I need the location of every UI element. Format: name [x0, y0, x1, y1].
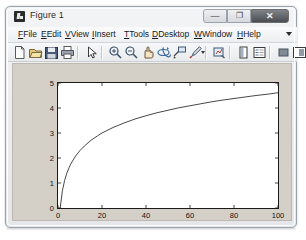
toolbar-separator: [229, 46, 231, 59]
menu-item-help[interactable]: HHelp: [236, 29, 262, 39]
y-tick-label: 2: [38, 154, 54, 163]
minimize-icon: —: [204, 10, 226, 22]
menu-label: Tools: [129, 29, 149, 39]
y-tick-label: 5: [38, 79, 54, 88]
menu-label: Insert: [94, 29, 115, 39]
menu-item-window[interactable]: WWindow: [193, 29, 233, 39]
toolbar-separator: [101, 46, 103, 59]
plot-curve-svg: [58, 83, 278, 208]
x-tick-marks: [58, 83, 278, 208]
minimize-button[interactable]: —: [203, 9, 227, 23]
data-series-line: [60, 93, 278, 208]
figure-canvas[interactable]: 020406080100 012345: [12, 63, 292, 221]
zoom-in-icon[interactable]: [108, 45, 123, 60]
plot-axes[interactable]: [57, 82, 279, 209]
menu-item-tools[interactable]: TTools: [123, 29, 150, 39]
menu-item-file[interactable]: FFile: [17, 29, 38, 39]
data-cursor-icon[interactable]: [172, 45, 187, 60]
window-title: Figure 1: [30, 10, 64, 20]
title-bar[interactable]: Figure 1 — ❐ ✕: [6, 7, 296, 27]
menu-item-edit[interactable]: EEdit: [40, 29, 62, 39]
y-tick-label: 3: [38, 129, 54, 138]
show-plot-tools-icon[interactable]: [292, 45, 304, 60]
menu-item-insert[interactable]: IInsert: [91, 29, 117, 39]
menu-label: Edit: [47, 29, 62, 39]
menu-label: File: [23, 29, 37, 39]
menu-label: Help: [243, 29, 260, 39]
toolbar-separator: [269, 46, 271, 59]
print-figure-icon[interactable]: [60, 45, 75, 60]
maximize-button[interactable]: ❐: [227, 9, 251, 23]
matlab-figure-icon: [14, 11, 25, 22]
toolbar-separator: [77, 46, 79, 59]
maximize-icon: ❐: [228, 10, 250, 22]
figure-window: Figure 1 — ❐ ✕ FFile EEdit VView IInsert…: [5, 6, 297, 228]
rotate-3d-icon[interactable]: [156, 45, 171, 60]
new-figure-icon[interactable]: [12, 45, 27, 60]
x-tick-label: 20: [90, 211, 114, 220]
x-tick-label: 40: [134, 211, 158, 220]
menu-label: Window: [202, 29, 232, 39]
save-figure-icon[interactable]: [44, 45, 59, 60]
insert-legend-icon[interactable]: [252, 45, 267, 60]
menu-bar: FFile EEdit VView IInsert TTools DDeskto…: [7, 27, 297, 43]
zoom-out-icon[interactable]: [124, 45, 139, 60]
toolbar-separator: [205, 46, 207, 59]
menu-item-desktop[interactable]: DDesktop: [151, 29, 190, 39]
y-tick-marks: [58, 83, 278, 208]
close-button[interactable]: ✕: [251, 9, 289, 23]
menu-item-view[interactable]: VView: [64, 29, 90, 39]
y-tick-label: 0: [38, 204, 54, 213]
close-icon: ✕: [252, 10, 288, 22]
menu-label: Desktop: [158, 29, 189, 39]
window-shadow: [6, 228, 296, 230]
pan-icon[interactable]: [140, 45, 155, 60]
toolbar: [7, 43, 297, 62]
x-tick-label: 60: [178, 211, 202, 220]
x-tick-label: 80: [222, 211, 246, 220]
open-file-icon[interactable]: [28, 45, 43, 60]
hide-plot-tools-icon[interactable]: [276, 45, 291, 60]
link-plot-icon[interactable]: [212, 45, 227, 60]
menu-label: View: [71, 29, 89, 39]
insert-colorbar-icon[interactable]: [236, 45, 251, 60]
x-tick-label: 100: [266, 211, 290, 220]
y-tick-label: 1: [38, 179, 54, 188]
edit-pointer-icon[interactable]: [84, 45, 99, 60]
y-tick-label: 4: [38, 104, 54, 113]
chevron-down-icon[interactable]: [286, 32, 292, 36]
